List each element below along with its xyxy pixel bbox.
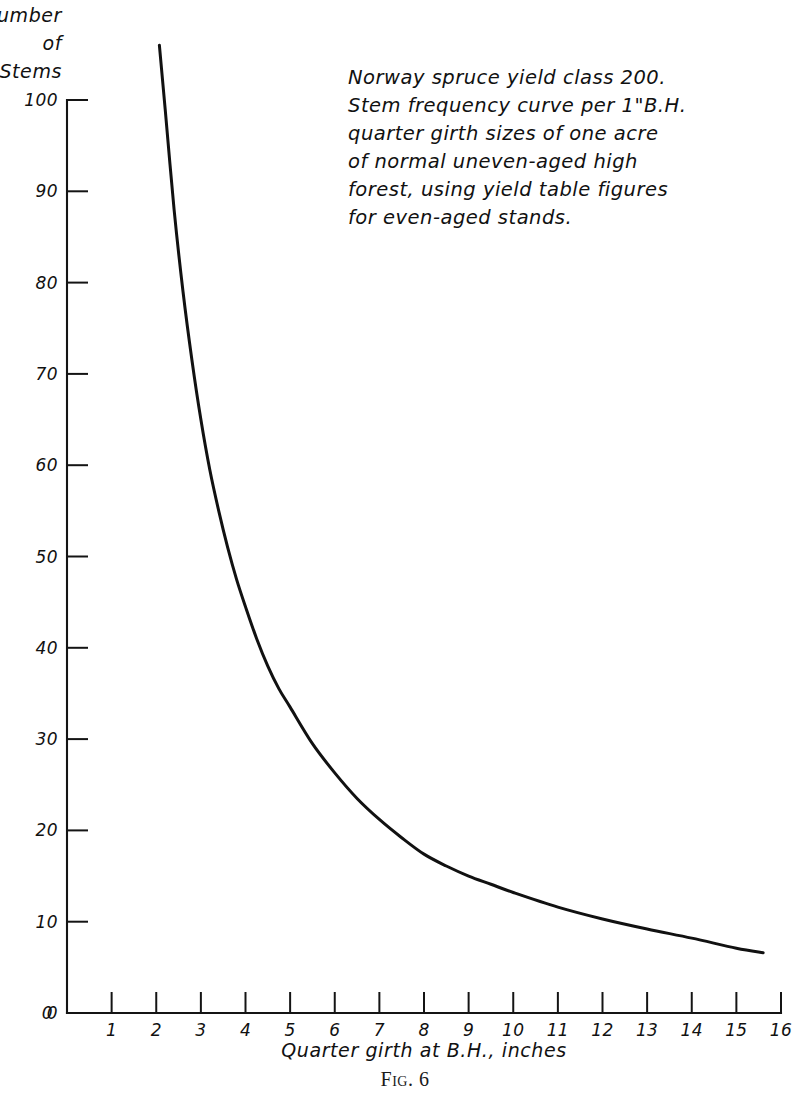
y-tick-label: 50: [36, 547, 58, 567]
figure-container: 0102030405060708090100 01234567891011121…: [0, 0, 810, 1112]
x-tick-label: 10: [502, 1020, 524, 1040]
y-axis-title-line-1: Number: [0, 4, 63, 26]
x-tick-label: 9: [463, 1020, 474, 1040]
y-axis-title: Number of Stems: [0, 4, 65, 82]
annotation-line: Stem frequency curve per 1"B.H.: [348, 94, 686, 117]
y-tick-label: 70: [36, 364, 58, 384]
annotation-line: Norway spruce yield class 200.: [348, 66, 666, 89]
x-tick-label: 11: [547, 1020, 569, 1040]
figure-caption: Fig. 6: [0, 1068, 810, 1091]
stem-frequency-chart: 0102030405060708090100 01234567891011121…: [0, 0, 810, 1112]
annotation-line: of normal uneven-aged high: [348, 150, 638, 173]
y-tick-label: 40: [36, 638, 58, 658]
y-axis-title-line-3: Stems: [0, 60, 62, 82]
x-axis-ticks: 012345678910111213141516: [42, 992, 792, 1040]
x-tick-label: 7: [374, 1020, 385, 1040]
y-tick-label: 30: [36, 729, 58, 749]
x-tick-label: 1: [106, 1020, 117, 1040]
x-tick-label: 6: [329, 1020, 340, 1040]
x-tick-label: 4: [240, 1020, 251, 1040]
x-tick-label: 12: [591, 1020, 613, 1040]
x-tick-label: 8: [418, 1020, 429, 1040]
x-axis-title: Quarter girth at B.H., inches: [281, 1039, 567, 1061]
y-tick-label: 100: [24, 90, 58, 110]
annotation-line: quarter girth sizes of one acre: [348, 122, 658, 145]
x-tick-label: 16: [770, 1020, 792, 1040]
y-tick-label: 20: [36, 820, 58, 840]
annotation-line: for even-aged stands.: [348, 206, 572, 229]
x-tick-label: 15: [725, 1020, 747, 1040]
y-axis-title-line-2: of: [42, 32, 64, 54]
x-tick-label: 5: [285, 1020, 296, 1040]
chart-annotation: Norway spruce yield class 200.Stem frequ…: [348, 66, 686, 229]
x-tick-label: 2: [151, 1020, 162, 1040]
y-tick-label: 60: [36, 455, 58, 475]
x-tick-label: 13: [636, 1020, 658, 1040]
y-tick-label: 80: [36, 273, 58, 293]
x-tick-label: 14: [681, 1020, 703, 1040]
annotation-line: forest, using yield table figures: [348, 178, 668, 201]
x-tick-label: 3: [195, 1020, 206, 1040]
x-tick-label: 0: [42, 1003, 53, 1023]
axes-group: [67, 100, 781, 1013]
y-axis-ticks: 0102030405060708090100: [24, 90, 88, 1023]
y-tick-label: 90: [36, 181, 58, 201]
y-tick-label: 10: [36, 912, 58, 932]
